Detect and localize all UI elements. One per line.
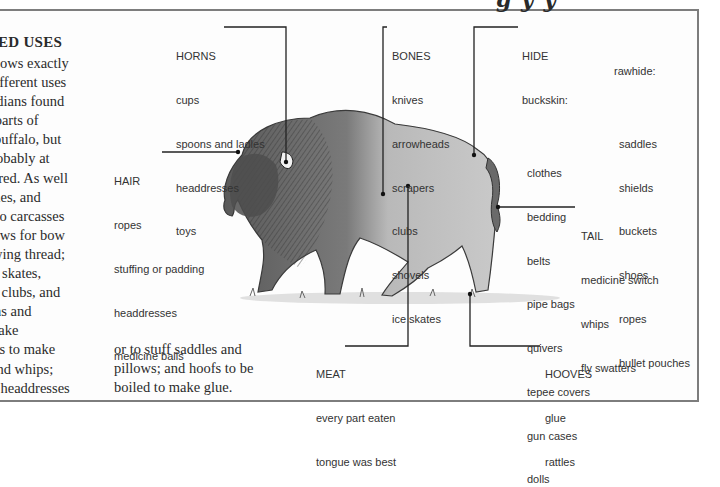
callout-title: HORNS <box>176 49 265 64</box>
callout-title: HIDE <box>522 49 590 64</box>
callout-item: clubs <box>392 224 449 239</box>
callout-title: HAIR <box>114 174 204 189</box>
horns-marker-dot <box>284 160 288 164</box>
callout-hooves: HOOVES glue rattles <box>545 338 592 484</box>
callout-item: headdresses <box>114 306 204 321</box>
callout-item: fly swatters <box>581 361 659 376</box>
hooves-marker-dot <box>468 292 472 296</box>
callout-title: BONES <box>392 49 449 64</box>
callout-item: scrapers <box>392 181 449 196</box>
hide-marker-dot <box>472 153 476 157</box>
callout-item: arrowheads <box>392 137 449 152</box>
callout-meat: MEAT every part eaten tongue was best <box>316 338 396 484</box>
callout-item: medicine switch <box>581 273 659 288</box>
callout-subheading-rawhide: rawhide: <box>614 64 690 79</box>
callout-item: shields <box>614 181 690 196</box>
callout-hair: HAIR ropes stuffing or padding headdress… <box>114 145 204 379</box>
bison-body <box>224 110 500 298</box>
callout-item: saddles <box>614 137 690 152</box>
callout-item: knives <box>392 93 449 108</box>
callout-item: bedding <box>522 210 590 225</box>
callout-item: shovels <box>392 268 449 283</box>
callout-item: whips <box>581 317 659 332</box>
hide-leader-line <box>474 27 518 154</box>
callout-title: MEAT <box>316 367 396 382</box>
callout-title: TAIL <box>581 229 659 244</box>
callout-item: ropes <box>114 218 204 233</box>
callout-subheading-buckskin: buckskin: <box>522 93 590 108</box>
tail-marker-dot <box>496 205 500 209</box>
callout-item: belts <box>522 254 590 269</box>
callout-item: medicine balls <box>114 349 204 364</box>
callout-item: cups <box>176 93 265 108</box>
bones-marker-dot <box>381 192 385 196</box>
callout-title: HOOVES <box>545 367 592 382</box>
callout-item: tongue was best <box>316 455 396 470</box>
callout-item: pipe bags <box>522 297 590 312</box>
callout-item: glue <box>545 411 592 426</box>
callout-item: every part eaten <box>316 411 396 426</box>
callout-item: stuffing or padding <box>114 262 204 277</box>
callout-bones: BONES knives arrowheads scrapers clubs s… <box>392 20 449 341</box>
callout-item: ice skates <box>392 312 449 327</box>
callout-item: clothes <box>522 166 590 181</box>
callout-item: rattles <box>545 455 592 470</box>
callout-tail: TAIL medicine switch whips fly swatters <box>581 200 659 390</box>
